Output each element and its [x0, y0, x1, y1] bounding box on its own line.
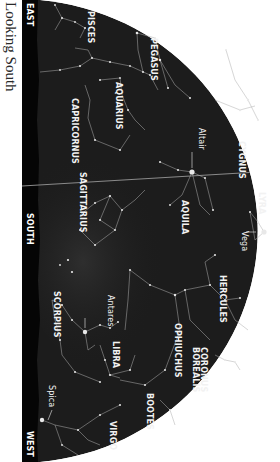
direction-label-east: EAST: [25, 3, 34, 26]
constellation-label-bootes: BOOTES: [145, 393, 154, 430]
constellation-label-aquarius: AQUARIUS: [114, 82, 123, 130]
constellation-label-lyra: LYRA: [257, 192, 266, 214]
constellation-label-hercules: HERCULES: [218, 275, 227, 323]
constellation-label-sagittarius: SAGITTARIUS: [78, 172, 87, 233]
star-label-spica: Spica: [47, 385, 56, 407]
direction-label-south: SOUTH: [25, 213, 34, 245]
constellation-label-libra: LIBRA: [111, 341, 120, 368]
star-label-altair: Altair: [197, 128, 206, 150]
constellation-label-corona-borealis-line1: CORONUS: [199, 347, 208, 392]
direction-label-west: WEST: [25, 431, 34, 457]
constellation-label-ophiuchus: OPHIUCHUS: [173, 323, 182, 378]
constellation-label-aquila: AQUILA: [180, 200, 189, 234]
constellation-label-capricornus: CAPRICORNUS: [70, 98, 79, 164]
constellation-label-corona-borealis-line2: BOREALIS: [191, 347, 200, 392]
star-label-antares: Antares: [106, 295, 115, 327]
constellation-label-pegasus: PEGASUS: [149, 38, 158, 81]
star-label-vega: Vega: [240, 231, 249, 251]
constellation-label-virgo: VIRGO: [108, 421, 117, 450]
constellation-label-pisces: PISCES: [86, 11, 95, 43]
sky-chart: [0, 0, 280, 462]
constellation-label-cygnus: CYGNUS: [237, 141, 246, 179]
constellation-label-scorpius: SCORPIUS: [52, 291, 61, 338]
